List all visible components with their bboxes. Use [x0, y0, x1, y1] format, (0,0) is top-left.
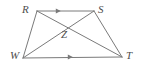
vertex-label-T: T — [126, 50, 132, 61]
segment-RT — [37, 11, 122, 57]
segments-group — [23, 11, 122, 58]
geometry-figure: R S W T Z — [0, 0, 145, 68]
segment-ST — [94, 11, 122, 57]
arrow-mark-rs-icon — [56, 8, 61, 13]
vertex-label-W: W — [10, 50, 19, 61]
vertex-label-S: S — [98, 4, 104, 15]
segment-RW — [23, 11, 37, 58]
segment-WS — [23, 11, 94, 58]
arrow-mark-wt-icon — [68, 54, 73, 59]
vertex-label-R: R — [22, 4, 29, 15]
vertex-label-Z: Z — [61, 29, 67, 40]
